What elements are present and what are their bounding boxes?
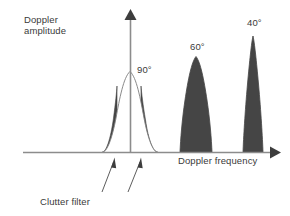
doppler-spectrum-figure: Doppler amplitude Doppler frequency 90° …: [0, 0, 290, 216]
x-axis-arrowhead-icon: [270, 147, 281, 159]
spectrum-60-peak: [180, 57, 212, 153]
y-axis-label: Doppler amplitude: [24, 14, 126, 36]
clutter-filter-label: Clutter filter: [40, 196, 90, 207]
spectrum-40-peak: [243, 36, 263, 152]
y-axis-arrowhead-icon: [125, 9, 137, 20]
series-label-60: 60°: [190, 41, 205, 52]
series-label-40: 40°: [247, 17, 262, 28]
x-axis-label: Doppler frequency: [178, 155, 257, 166]
clutter-filter-arrowhead-right-icon: [138, 158, 143, 169]
y-axis-label-line2: amplitude: [24, 25, 126, 36]
clutter-filter-arrowhead-left-icon: [111, 158, 116, 169]
clutter-filter-leader-arrows: [102, 158, 143, 193]
y-axis-label-line1: Doppler: [24, 14, 58, 25]
series-label-90: 90°: [137, 64, 152, 75]
